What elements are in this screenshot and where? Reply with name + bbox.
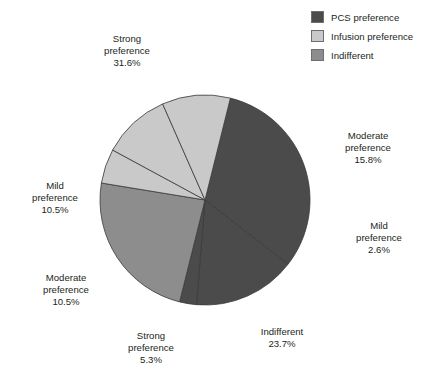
legend: PCS preference Infusion preference Indif… — [311, 10, 413, 62]
legend-item-indifferent[interactable]: Indifferent — [311, 48, 413, 62]
slice-label-mild-infusion: Mild preference 10.5% — [10, 180, 100, 217]
slice-label-indifferent: Indifferent 23.7% — [236, 326, 328, 350]
slice-label-value: 10.5% — [18, 296, 114, 308]
slice-label-line1: Moderate — [320, 130, 416, 142]
legend-item-pcs-preference[interactable]: PCS preference — [311, 10, 413, 24]
slice-label-strong-pcs: Strong preference 31.6% — [78, 33, 176, 70]
slice-label-line1: Strong — [78, 33, 176, 45]
slice-label-line1: Mild — [10, 180, 100, 192]
slice-label-line2: preference — [334, 232, 424, 244]
slice-label-strong-infusion: Strong preference 5.3% — [106, 330, 196, 367]
slice-label-moderate-pcs: Moderate preference 15.8% — [320, 130, 416, 167]
slice-label-line2: preference — [10, 192, 100, 204]
pie-slice-group — [100, 95, 310, 305]
slice-label-value: 15.8% — [320, 154, 416, 166]
slice-label-value: 23.7% — [236, 338, 328, 350]
legend-item-label: Indifferent — [331, 50, 374, 61]
slice-label-mild-pcs: Mild preference 2.6% — [334, 220, 424, 257]
slice-label-line2: preference — [106, 342, 196, 354]
slice-label-line1: Mild — [334, 220, 424, 232]
slice-label-value: 2.6% — [334, 244, 424, 256]
legend-item-label: Infusion preference — [331, 31, 413, 42]
color-swatch-icon — [311, 11, 324, 23]
legend-item-infusion-preference[interactable]: Infusion preference — [311, 29, 413, 43]
color-swatch-icon — [311, 30, 324, 42]
color-swatch-icon — [311, 49, 324, 61]
slice-label-value: 31.6% — [78, 57, 176, 69]
slice-label-line2: preference — [18, 284, 114, 296]
slice-label-line1: Strong — [106, 330, 196, 342]
legend-item-label: PCS preference — [331, 12, 399, 23]
slice-label-line2: preference — [78, 45, 176, 57]
slice-label-line1: Indifferent — [236, 326, 328, 338]
slice-label-value: 10.5% — [10, 204, 100, 216]
slice-label-moderate-infusion: Moderate preference 10.5% — [18, 272, 114, 309]
slice-label-line1: Moderate — [18, 272, 114, 284]
slice-label-line2: preference — [320, 142, 416, 154]
slice-label-value: 5.3% — [106, 354, 196, 366]
